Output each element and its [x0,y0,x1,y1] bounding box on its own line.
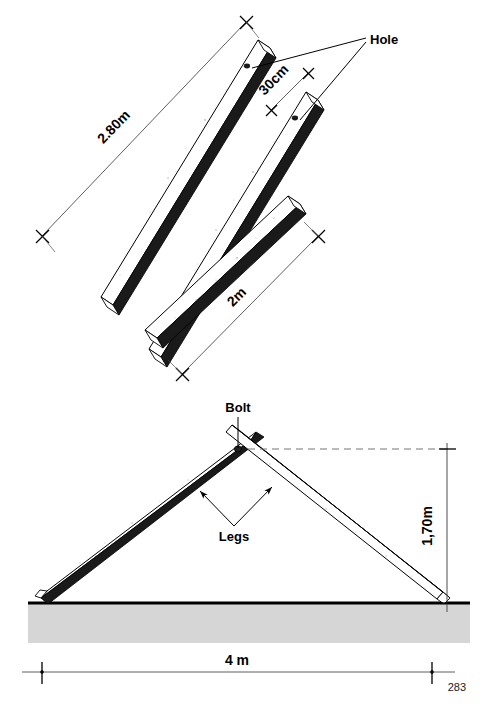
page-number: 283 [448,681,466,693]
hole-beam-2 [292,116,298,121]
figure-canvas: 2.80m [0,0,487,709]
technical-drawing-figure: 2.80m [0,0,487,709]
hole-callout-label: Hole [370,32,398,47]
dimension-label-4m: 4 m [225,652,249,668]
hole-beam-1 [244,64,250,69]
legs-callout-label: Legs [219,529,249,544]
bolt-callout-label: Bolt [225,400,251,415]
dimension-label-1-70m: 1,70m [419,506,435,546]
ground-fill [28,604,470,643]
